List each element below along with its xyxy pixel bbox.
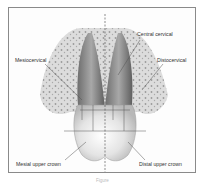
- tooth-illustration: [0, 0, 205, 188]
- label-mesiocervical: Mesiocervical: [15, 58, 46, 63]
- label-central-cervical: Central cervical: [137, 32, 173, 37]
- figure-caption: Figure: [0, 178, 205, 183]
- label-distocervical: Distocervical: [157, 58, 186, 63]
- label-distal-upper-crown: Distal upper crown: [139, 162, 182, 167]
- label-mesial-upper-crown: Mesial upper crown: [16, 162, 61, 167]
